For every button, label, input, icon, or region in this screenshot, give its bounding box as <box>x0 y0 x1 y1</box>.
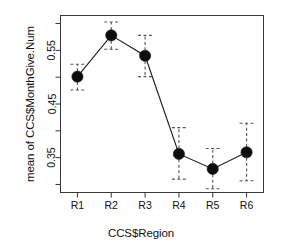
y-tick-label: 0.35 <box>46 147 58 168</box>
y-tick-label: 0.55 <box>46 40 58 61</box>
x-tick-label: R3 <box>138 199 152 211</box>
y-tick-label: 0.45 <box>46 94 58 115</box>
x-tick-label: R5 <box>206 199 220 211</box>
data-point-marker <box>207 163 218 174</box>
y-axis-title: mean of CCS$MonthGive.Num <box>24 4 36 204</box>
data-point-marker <box>106 30 117 41</box>
x-tick-label: R4 <box>172 199 186 211</box>
data-point-marker <box>241 147 252 158</box>
chart-figure: 0.350.450.55 R1R2R3R4R5R6 CCS$Region mea… <box>0 0 282 251</box>
x-tick-label: R1 <box>71 199 85 211</box>
y-axis-tick-labels: 0.350.450.55 <box>46 40 58 168</box>
x-tick-label: R6 <box>240 199 254 211</box>
data-point-marker <box>139 50 150 61</box>
data-point-marker <box>72 71 83 82</box>
x-tick-label: R2 <box>105 199 119 211</box>
figure-background <box>0 0 282 251</box>
x-axis-title: CCS$Region <box>0 227 282 239</box>
means-plot-canvas: 0.350.450.55 R1R2R3R4R5R6 <box>0 0 282 251</box>
data-point-marker <box>173 148 184 159</box>
